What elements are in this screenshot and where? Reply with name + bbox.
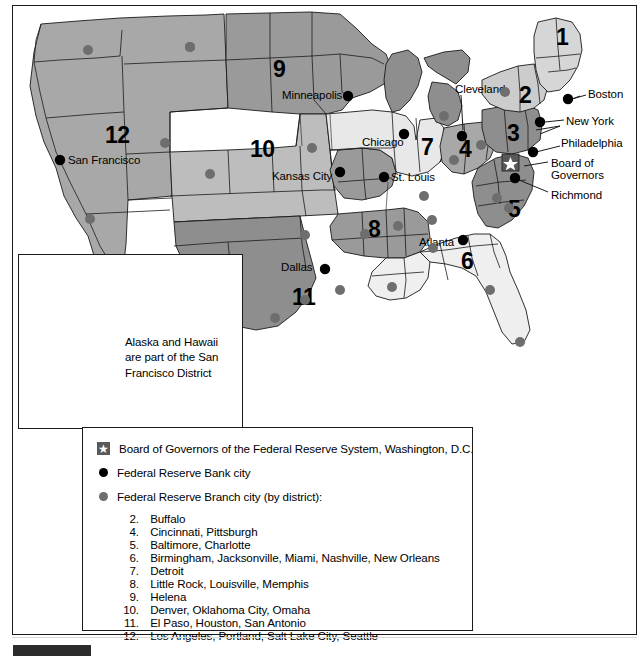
- branch-cities: Buffalo: [150, 512, 185, 525]
- branch-cities: Los Angeles, Portland, Salt Lake City, S…: [150, 629, 378, 642]
- branch-cities: Baltimore, Charlotte: [150, 538, 250, 551]
- legend-branch-item: 11. El Paso, Houston, San Antonio: [113, 616, 306, 629]
- legend-row-board: ★ Board of Governors of the Federal Rese…: [97, 442, 473, 455]
- bank-city-dots: [55, 91, 573, 274]
- branch-cities: El Paso, Houston, San Antonio: [150, 616, 306, 629]
- bank-dot-new-york: [535, 117, 545, 127]
- branch-dot-helena-mt: [185, 42, 195, 52]
- branch-cities: Cincinnati, Pittsburgh: [150, 525, 257, 538]
- branch-dot-new-orleans: [387, 282, 397, 292]
- legend-branch-item: 12. Los Angeles, Portland, Salt Lake Cit…: [113, 629, 378, 642]
- bottom-cropped-bar: [13, 645, 91, 656]
- branch-number: 2.: [113, 512, 139, 525]
- branch-dot-denver: [205, 169, 215, 179]
- branch-dot-birmingham: [428, 243, 438, 253]
- star-icon: ★: [97, 442, 110, 455]
- branch-number: 9.: [113, 590, 139, 603]
- branch-dot-detroit: [439, 111, 449, 121]
- inset-note-line3: Francisco District: [125, 366, 235, 381]
- bank-dot-dallas: [320, 264, 330, 274]
- legend-branch-item: 8. Little Rock, Louisville, Memphis: [113, 577, 309, 590]
- legend-branch-item: 4. Cincinnati, Pittsburgh: [113, 525, 257, 538]
- branch-dot-slc: [160, 138, 170, 148]
- legend-bank-label: Federal Reserve Bank city: [117, 466, 250, 479]
- branch-dot-louisville: [419, 191, 429, 201]
- branch-dot-houston: [335, 285, 345, 295]
- bank-dot-kansas-city: [335, 167, 345, 177]
- branch-dot-charlotte: [492, 193, 502, 203]
- bank-dot-minneapolis: [343, 91, 353, 101]
- branch-dot-los-angeles: [85, 214, 95, 224]
- inset-note-line2: are part of the San: [125, 350, 235, 365]
- branch-dot-miami: [515, 337, 525, 347]
- branch-cities: Denver, Oklahoma City, Omaha: [150, 603, 310, 616]
- branch-number: 12.: [113, 629, 139, 642]
- branch-number: 6.: [113, 551, 139, 564]
- branch-dot-pittsburgh: [476, 140, 486, 150]
- bank-dot-philadelphia: [528, 147, 538, 157]
- branch-number: 11.: [113, 616, 139, 629]
- branch-dot-memphis: [393, 221, 403, 231]
- gray-dot-icon: [99, 492, 108, 501]
- branch-dot-buffalo: [500, 87, 510, 97]
- bank-dot-san-francisco: [55, 155, 65, 165]
- branch-dot-nashville: [427, 215, 437, 225]
- bank-dot-chicago: [399, 129, 409, 139]
- inset-note-line1: Alaska and Hawaii: [125, 335, 235, 350]
- branch-dot-baltimore: [504, 203, 514, 213]
- branch-dot-jacksonville: [485, 285, 495, 295]
- bank-dot-st-louis: [379, 172, 389, 182]
- branch-dot-san-antonio: [300, 295, 310, 305]
- branch-dot-portland: [83, 45, 93, 55]
- map-legend: ★ Board of Governors of the Federal Rese…: [82, 427, 473, 631]
- legend-branch-item: 9. Helena: [113, 590, 186, 603]
- branch-dot-el-paso: [270, 313, 280, 323]
- branch-number: 7.: [113, 564, 139, 577]
- branch-dot-little-rock: [360, 229, 370, 239]
- board-of-governors-star-marker: [502, 154, 519, 171]
- branch-number: 10.: [113, 603, 139, 616]
- bank-dot-cleveland: [457, 131, 467, 141]
- branch-number: 5.: [113, 538, 139, 551]
- legend-branch-item: 6. Birmingham, Jacksonville, Miami, Nash…: [113, 551, 440, 564]
- branch-cities: Little Rock, Louisville, Memphis: [150, 577, 309, 590]
- branch-number: 8.: [113, 577, 139, 590]
- legend-branch-item: 7. Detroit: [113, 564, 184, 577]
- legend-row-bank: Federal Reserve Bank city: [99, 466, 250, 479]
- branch-dot-omaha: [307, 143, 317, 153]
- branch-cities: Birmingham, Jacksonville, Miami, Nashvil…: [150, 551, 440, 564]
- branch-cities: Helena: [150, 590, 186, 603]
- branch-dot-cincinnati: [449, 155, 459, 165]
- inset-note: Alaska and Hawaii are part of the San Fr…: [125, 335, 235, 381]
- branch-cities: Detroit: [150, 564, 183, 577]
- legend-branch-item: 5. Baltimore, Charlotte: [113, 538, 251, 551]
- bank-dot-richmond: [510, 173, 520, 183]
- bank-dot-atlanta: [458, 235, 468, 245]
- branch-number: 4.: [113, 525, 139, 538]
- black-dot-icon: [99, 468, 108, 477]
- legend-branch-item: 10. Denver, Oklahoma City, Omaha: [113, 603, 310, 616]
- legend-row-branch: Federal Reserve Branch city (by district…: [99, 490, 322, 503]
- bottom-rule: [12, 637, 637, 638]
- legend-branch-label: Federal Reserve Branch city (by district…: [117, 490, 322, 503]
- legend-branch-item: 2. Buffalo: [113, 512, 185, 525]
- bank-dot-boston: [563, 94, 573, 104]
- legend-board-label: Board of Governors of the Federal Reserv…: [119, 442, 473, 455]
- branch-dot-oklahoma-city: [300, 230, 310, 240]
